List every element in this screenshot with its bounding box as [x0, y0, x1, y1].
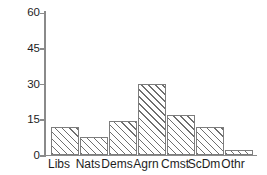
bar-othr[interactable] [225, 150, 253, 155]
x-tick-label-othr: Othr [205, 157, 261, 171]
y-tick-label-60: 60 [4, 7, 40, 19]
y-tick-label-15: 15 [4, 114, 40, 126]
bar-libs[interactable] [51, 127, 79, 155]
bar-slot-dems [109, 13, 137, 155]
plot-area [45, 13, 257, 155]
bar-dems[interactable] [109, 121, 137, 155]
bar-agrn[interactable] [138, 84, 166, 155]
bar-nats[interactable] [80, 137, 108, 155]
bar-slot-agrn [138, 13, 166, 155]
bar-slot-othr [225, 13, 253, 155]
y-axis: 60 45 30 15 0 [0, 0, 40, 175]
bar-scdm[interactable] [196, 127, 224, 155]
bar-slot-scdm [196, 13, 224, 155]
bar-slot-cmst [167, 13, 195, 155]
bar-cmst[interactable] [167, 115, 195, 155]
bar-slot-libs [51, 13, 79, 155]
bar-chart: 60 45 30 15 0 [0, 0, 267, 175]
y-tick-label-30: 30 [4, 79, 40, 91]
y-tick-label-45: 45 [4, 43, 40, 55]
bar-slot-nats [80, 13, 108, 155]
